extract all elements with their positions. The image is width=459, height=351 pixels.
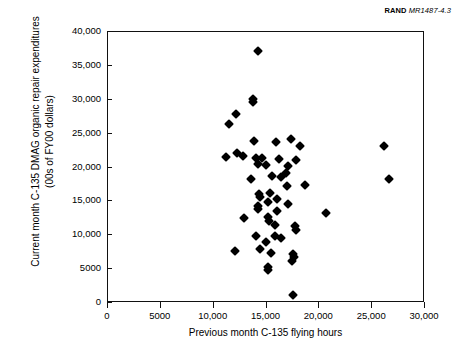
scatter-point (221, 152, 231, 162)
x-tick-mark (266, 302, 267, 308)
scatter-point (379, 141, 389, 151)
scatter-point (230, 246, 240, 256)
scatter-point (288, 290, 298, 300)
source-credit: RAND MR1487-4.3 (384, 7, 451, 15)
scatter-point (272, 206, 282, 216)
scatter-point (271, 137, 281, 147)
y-tick-mark (107, 65, 112, 66)
x-tick-mark (107, 302, 108, 308)
scatter-point (283, 199, 293, 209)
x-tick-label: 10,000 (198, 311, 227, 321)
scatter-point (300, 181, 310, 191)
y-tick-label: 40,000 (72, 26, 101, 36)
y-tick-label: 5000 (80, 263, 101, 273)
y-tick-label: 10,000 (72, 230, 101, 240)
scatter-point (286, 134, 296, 144)
scatter-point (251, 231, 261, 241)
scatter-point (249, 136, 259, 146)
scatter-point (231, 109, 241, 119)
x-tick-label: 15,000 (251, 311, 280, 321)
document-id: MR1487-4.3 (409, 6, 451, 15)
x-tick-mark (213, 302, 214, 308)
plot-area: 0500010,00015,00020,00025,00030,00035,00… (107, 31, 424, 302)
scatter-point (282, 181, 292, 191)
scatter-point (266, 248, 276, 258)
scatter-point (239, 213, 249, 223)
scatter-point (321, 208, 331, 218)
x-tick-mark (160, 302, 161, 308)
y-tick-label: 0 (96, 297, 101, 307)
y-tick-mark (107, 200, 112, 201)
rand-logo-text: RAND (384, 6, 406, 15)
y-tick-label: 30,000 (72, 94, 101, 104)
y-axis-title: Current month C-135 DMAG organic repair … (29, 12, 56, 272)
x-tick-mark (318, 302, 319, 308)
x-tick-mark (371, 302, 372, 308)
x-axis-title: Previous month C-135 flying hours (107, 327, 424, 338)
scatter-point (255, 244, 265, 254)
x-tick-label: 30,000 (409, 311, 438, 321)
x-tick-label: 0 (104, 311, 109, 321)
scatter-point (224, 120, 234, 130)
x-tick-label: 20,000 (304, 311, 333, 321)
scatter-point (253, 46, 263, 56)
x-tick-label: 5000 (149, 311, 170, 321)
scatter-point (274, 154, 284, 164)
scatter-point (276, 233, 286, 243)
y-tick-mark (107, 234, 112, 235)
y-tick-label: 20,000 (72, 162, 101, 172)
scatter-point (291, 155, 301, 165)
scatter-point (295, 141, 305, 151)
y-tick-mark (107, 31, 112, 32)
y-tick-mark (107, 133, 112, 134)
scatter-point (384, 174, 394, 184)
y-tick-label: 15,000 (72, 196, 101, 206)
figure-scatter-plot: RAND MR1487-4.3 0500010,00015,00020,0002… (0, 0, 459, 351)
y-tick-label: 25,000 (72, 128, 101, 138)
scatter-point (246, 174, 256, 184)
y-tick-label: 35,000 (72, 60, 101, 70)
y-tick-mark (107, 99, 112, 100)
y-tick-mark (107, 167, 112, 168)
scatter-point (272, 194, 282, 204)
x-tick-label: 25,000 (357, 311, 386, 321)
y-tick-mark (107, 268, 112, 269)
x-tick-mark (424, 302, 425, 308)
